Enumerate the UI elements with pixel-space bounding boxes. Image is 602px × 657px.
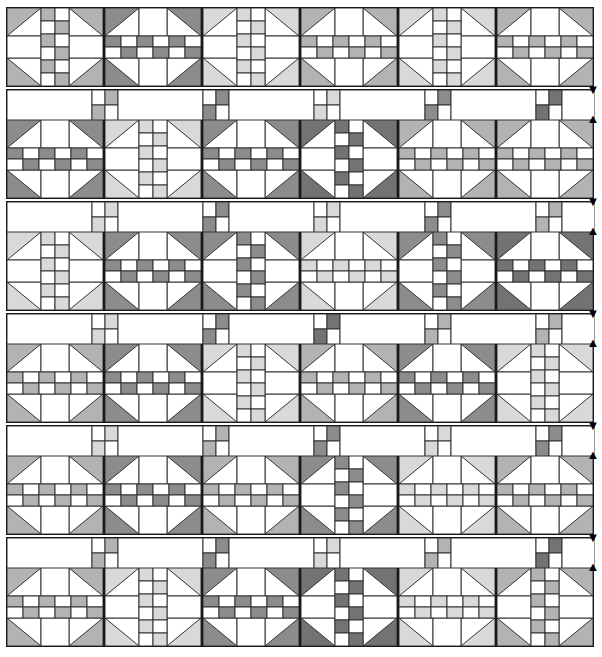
center-patch (349, 372, 365, 383)
block-row (6, 7, 594, 87)
center-patch (139, 146, 153, 159)
quilt-block (104, 231, 202, 311)
center-patch (7, 148, 23, 159)
side-rect (139, 282, 167, 310)
center-patch (169, 47, 185, 58)
center-patch (399, 596, 415, 607)
center-patch (415, 484, 431, 495)
quilt-block (6, 455, 104, 535)
block-row (6, 567, 594, 647)
side-rect (335, 58, 363, 86)
center-patch (433, 258, 447, 271)
center-patch (55, 47, 69, 60)
center-patch (153, 607, 167, 620)
center-patch (365, 36, 381, 47)
quilt-block (202, 119, 300, 199)
sashing-row (6, 537, 594, 567)
center-patch (251, 60, 265, 73)
center-patch (447, 484, 463, 495)
center-patch (169, 495, 185, 506)
center-patch (153, 146, 167, 159)
center-patch (431, 372, 447, 383)
center-patch (251, 8, 265, 21)
center-patch (545, 370, 559, 383)
center-patch (399, 495, 415, 506)
side-rect (203, 372, 237, 394)
sashing-row (6, 201, 594, 231)
side-rect (433, 170, 461, 198)
center-patch (71, 372, 87, 383)
center-patch (251, 271, 265, 284)
fourpatch-patch (314, 217, 327, 232)
center-patch (463, 495, 479, 506)
center-patch (237, 344, 251, 357)
center-patch (219, 159, 235, 170)
side-rect (301, 484, 335, 506)
center-patch (153, 633, 167, 646)
center-patch (251, 148, 267, 159)
center-patch (349, 120, 363, 133)
fourpatch-patch (92, 441, 105, 456)
center-patch (251, 47, 265, 60)
center-patch (153, 159, 167, 172)
side-rect (301, 596, 335, 618)
center-patch (433, 297, 447, 310)
center-patch (447, 60, 461, 73)
quilt-block (6, 231, 104, 311)
center-patch (55, 232, 69, 245)
center-patch (447, 607, 463, 618)
fourpatch-patch (203, 217, 216, 232)
fourpatch-patch (438, 90, 451, 105)
center-patch (121, 36, 137, 47)
center-patch (219, 148, 235, 159)
center-patch (415, 383, 431, 394)
center-patch (447, 284, 461, 297)
center-patch (415, 607, 431, 618)
sashing-rect (340, 538, 425, 568)
center-patch (121, 372, 137, 383)
side-rect (433, 394, 461, 422)
center-patch (335, 495, 349, 508)
side-rect (167, 148, 201, 170)
center-patch (23, 159, 39, 170)
center-patch (301, 260, 317, 271)
center-patch (349, 271, 365, 282)
center-patch (381, 372, 397, 383)
center-patch (335, 159, 349, 172)
fourpatch-patch (92, 329, 105, 344)
center-patch (333, 271, 349, 282)
sashing-rect (7, 426, 92, 456)
center-patch (87, 159, 103, 170)
fourpatch-patch (438, 441, 451, 456)
center-patch (251, 370, 265, 383)
center-patch (349, 456, 363, 469)
center-patch (415, 159, 431, 170)
center-patch (415, 148, 431, 159)
center-patch (433, 60, 447, 73)
center-patch (577, 159, 593, 170)
center-patch (39, 372, 55, 383)
center-patch (41, 47, 55, 60)
center-patch (545, 633, 559, 646)
quilt-block (300, 7, 398, 87)
center-patch (349, 482, 363, 495)
sashing-rect (340, 314, 425, 344)
center-patch (251, 396, 265, 409)
sashing-row (6, 89, 594, 119)
center-patch (219, 484, 235, 495)
center-patch (545, 484, 561, 495)
center-patch (23, 372, 39, 383)
center-patch (153, 568, 167, 581)
center-patch (283, 159, 299, 170)
fourpatch-patch (216, 329, 229, 344)
side-rect (237, 618, 265, 646)
center-patch (139, 120, 153, 133)
center-patch (333, 36, 349, 47)
center-patch (39, 495, 55, 506)
side-rect (139, 506, 167, 534)
center-patch (545, 148, 561, 159)
center-patch (153, 260, 169, 271)
fourpatch-patch (438, 202, 451, 217)
center-patch (335, 469, 349, 482)
center-patch (87, 383, 103, 394)
